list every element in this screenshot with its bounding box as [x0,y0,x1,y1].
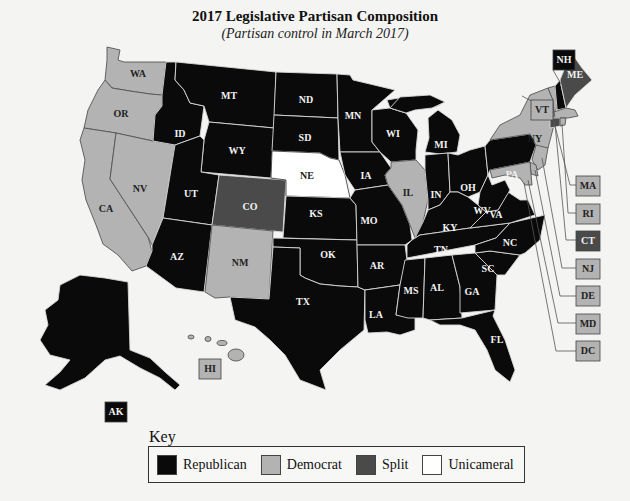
state-hi[interactable] [188,335,244,361]
callout-label-ct: CT [581,235,595,246]
state-label-ms: MS [404,285,419,296]
callout-label-de: DE [581,290,595,301]
state-label-id: ID [174,128,185,139]
state-label-nv: NV [133,183,148,194]
state-label-fl: FL [491,334,504,345]
swatch-unicameral [422,455,442,475]
legend-label: Republican [183,457,247,473]
swatch-split [356,455,376,475]
callout-label-dc: DC [581,345,595,356]
swatch-republican [157,455,177,475]
state-label-nm: NM [232,257,249,268]
state-label-ky: KY [443,222,459,233]
legend-label: Split [382,457,408,473]
state-label-mn: MN [345,110,362,121]
callout-label-nh: NH [557,54,572,65]
state-label-nc: NC [503,237,517,248]
state-label-tx: TX [296,296,311,307]
state-label-ks: KS [309,208,323,219]
state-label-ga: GA [465,286,481,297]
callout-label-ak: AK [109,406,124,417]
state-label-pa: PA [506,169,519,180]
legend-item-split: Split [356,455,408,475]
us-map: WAORCANVIDMTWYUTAZCONMNDSDNEKSOKTXMNIAMO… [0,0,630,501]
callout-label-nj: NJ [582,263,594,274]
state-label-co: CO [243,201,258,212]
state-label-nd: ND [299,94,313,105]
state-label-ia: IA [360,170,372,181]
callout-label-vt: VT [535,104,549,115]
state-label-in: IN [430,189,442,200]
legend-item-unicameral: Unicameral [422,455,513,475]
state-label-wi: WI [386,128,400,139]
callout-label-hi: HI [204,363,216,374]
legend: Republican Democrat Split Unicameral [148,446,525,483]
state-label-sc: SC [482,263,495,274]
callout-label-ri: RI [582,208,593,219]
legend-item-republican: Republican [157,455,247,475]
state-label-il: IL [403,187,414,198]
state-label-wv: WV [473,205,491,216]
legend-label: Democrat [287,457,342,473]
state-label-wy: WY [228,145,246,156]
state-ak[interactable] [40,275,180,390]
state-label-or: OR [114,108,130,119]
callout-label-ma: MA [580,180,597,191]
state-label-ne: NE [300,170,314,181]
state-label-oh: OH [460,182,476,193]
state-label-mo: MO [360,215,377,226]
state-label-la: LA [369,309,384,320]
state-label-ny: NY [528,133,543,144]
state-label-ar: AR [370,260,385,271]
state-label-va: VA [489,209,503,220]
key-title: Key [149,428,176,446]
callout-label-md: MD [580,318,597,329]
state-fl[interactable] [430,310,515,382]
state-label-me: ME [567,69,583,80]
swatch-democrat [261,455,281,475]
state-ri[interactable] [560,118,566,126]
state-label-az: AZ [170,251,184,262]
state-label-wa: WA [130,68,147,79]
state-label-tn: TN [434,244,449,255]
state-label-ut: UT [184,188,198,199]
legend-label: Unicameral [448,457,513,473]
state-label-mi: MI [434,139,447,150]
state-label-al: AL [430,282,444,293]
legend-item-democrat: Democrat [261,455,342,475]
state-label-ca: CA [99,203,114,214]
state-label-ok: OK [320,249,336,260]
state-label-mt: MT [221,90,237,101]
state-label-sd: SD [299,132,312,143]
